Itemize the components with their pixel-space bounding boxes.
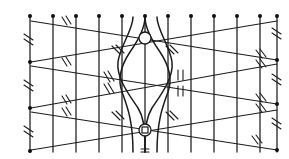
- hatch-left-edge-3: [24, 126, 33, 137]
- hatch-left-top-1: [62, 16, 71, 25]
- top-node-2: [51, 14, 55, 18]
- top-node-5: [120, 14, 124, 18]
- left-node-1: [28, 60, 32, 64]
- right-node-2: [275, 102, 279, 106]
- top-node-6: [143, 14, 147, 18]
- top-node-3: [74, 14, 78, 18]
- right-node-3: [275, 148, 279, 152]
- geometric-diagram: [0, 0, 289, 159]
- hatch-left-bottom-1: [62, 107, 71, 116]
- hatch-center-band-right-1: [178, 70, 183, 80]
- hatch-right-mid-2: [256, 103, 266, 112]
- hatch-left-mid-1: [62, 57, 71, 66]
- left-node-2: [28, 106, 32, 110]
- upper-intersection-ring: [139, 32, 151, 44]
- diagonal-band-lines: [31, 21, 277, 150]
- hatch-center-band-right-2: [178, 86, 183, 96]
- diagram-root: [0, 0, 289, 159]
- lower-junction-square: [142, 127, 148, 133]
- hatch-left-edge-2: [24, 80, 33, 91]
- top-node-4: [97, 14, 101, 18]
- hatch-center-band-left-1: [104, 71, 114, 82]
- top-node-9: [212, 14, 216, 18]
- top-node-8: [189, 14, 193, 18]
- hatch-center-band-left-2: [104, 83, 114, 94]
- top-node-7: [166, 14, 170, 18]
- top-node-11: [258, 14, 262, 18]
- top-node-10: [235, 14, 239, 18]
- right-node-1: [275, 58, 279, 62]
- diagonal-band-2-up: [31, 64, 277, 108]
- top-node-12: [275, 14, 279, 18]
- double-hatch-tick-marks: [24, 16, 281, 152]
- hatch-left-edge-1: [24, 34, 33, 45]
- top-node-1: [28, 14, 32, 18]
- left-node-3: [28, 149, 32, 153]
